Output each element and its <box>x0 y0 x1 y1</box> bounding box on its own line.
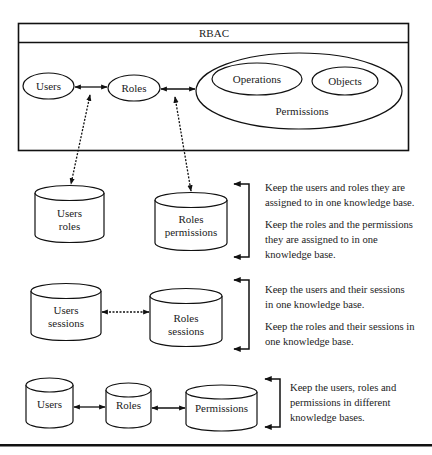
svg-text:roles: roles <box>59 220 80 232</box>
svg-text:Roles: Roles <box>116 399 141 411</box>
db-roles-sessions: Roles sessions <box>150 289 222 347</box>
note-text: Keep the users, roles and permissions in… <box>290 380 410 425</box>
note-text: Keep the roles and their sessions in one… <box>265 319 415 349</box>
objects-node: Objects <box>312 67 378 95</box>
svg-text:Roles: Roles <box>121 82 146 94</box>
notes-section-2: Keep the users and their sessions in one… <box>265 282 415 356</box>
bracket-3 <box>265 379 280 427</box>
users-node: Users <box>23 73 74 99</box>
operations-node: Operations <box>212 63 302 95</box>
notes-section-1: Keep the users and roles they are assign… <box>265 180 425 269</box>
roles-permissions-db-link <box>175 97 191 191</box>
users-roles-db-link <box>71 95 90 184</box>
svg-text:Objects: Objects <box>328 75 362 87</box>
bottom-rule <box>0 444 432 447</box>
note-text: Keep the roles and the permissions they … <box>265 217 415 262</box>
note-text: Keep the users and their sessions in one… <box>265 282 415 312</box>
svg-text:Operations: Operations <box>233 73 281 85</box>
db-permissions: Permissions <box>186 385 257 431</box>
db-users-roles: Users roles <box>35 186 104 243</box>
svg-text:sessions: sessions <box>168 325 204 337</box>
svg-text:Permissions: Permissions <box>275 105 328 117</box>
svg-text:Users: Users <box>37 398 62 410</box>
svg-text:Users: Users <box>53 304 78 316</box>
db-roles: Roles <box>106 383 151 428</box>
rbac-title: RBAC <box>199 27 229 39</box>
svg-text:permissions: permissions <box>165 226 218 238</box>
svg-text:Users: Users <box>57 207 82 219</box>
svg-text:Permissions: Permissions <box>195 402 248 414</box>
db-users-sessions: Users sessions <box>31 284 101 341</box>
svg-text:sessions: sessions <box>48 317 84 329</box>
notes-section-3: Keep the users, roles and permissions in… <box>290 380 410 432</box>
db-users: Users <box>26 378 73 428</box>
roles-node: Roles <box>108 75 160 101</box>
svg-text:Roles: Roles <box>178 213 203 225</box>
note-text: Keep the users and roles they are assign… <box>265 180 425 210</box>
bracket-1 <box>234 184 249 257</box>
svg-text:Roles: Roles <box>173 312 198 324</box>
db-roles-permissions: Roles permissions <box>155 193 227 251</box>
bracket-2 <box>234 280 249 349</box>
svg-text:Users: Users <box>36 80 61 92</box>
